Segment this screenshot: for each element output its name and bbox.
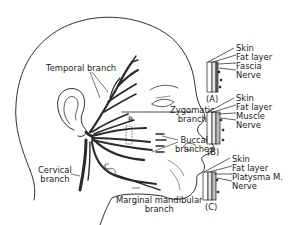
ear-inner-fold: [64, 97, 78, 124]
cervical-branch-nerve: [80, 140, 86, 190]
cross-section-a-label: (A): [206, 95, 218, 104]
mouth-corner-lines: [168, 160, 184, 190]
layer-nerve: Nerve: [236, 71, 272, 80]
neck-back-outline: [30, 170, 35, 200]
cross-section-a-layers: Skin Fat layer Fascia Nerve: [236, 44, 272, 80]
layer-nerve: Nerve: [232, 182, 283, 191]
zygomatic-branch-label: Zygomatic branch: [170, 106, 215, 124]
cross-section-a: [207, 48, 236, 92]
temporal-pointer-2: [92, 72, 108, 92]
cross-section-b-layers: Skin Fat layer Muscle Nerve: [236, 94, 272, 130]
marker-c: C: [104, 162, 109, 171]
cross-section-b-label: (B): [207, 148, 219, 157]
cross-section-c-label: (C): [205, 203, 217, 212]
facial-nerve-diagram: Temporal branch Zygomatic branch Buccal …: [0, 0, 288, 225]
marker-b: B: [128, 115, 133, 124]
buccal-branch-nerve-4: [94, 140, 144, 160]
ear-outline: [58, 88, 87, 136]
nerve-trunk: [86, 132, 92, 136]
temporal-branch-nerve-3: [108, 84, 136, 102]
cross-section-c: [203, 158, 232, 200]
marginal-mandibular-nerve-2: [112, 174, 160, 190]
eye-lid-fold: [156, 96, 170, 98]
temporal-branch-label: Temporal branch: [46, 64, 116, 73]
temporal-branch-nerve-5: [132, 56, 138, 62]
eyebrow: [150, 85, 178, 90]
cervical-branch-label: Cervical branch: [38, 166, 72, 184]
cervical-branch-nerve-2: [88, 142, 90, 180]
cervical-pointer: [71, 174, 80, 176]
marginal-mandibular-branch-label: Marginal mandibular branch: [116, 196, 203, 214]
layer-nerve: Nerve: [236, 121, 272, 130]
cross-section-c-layers: Skin Fat layer Platysma M. Nerve: [232, 155, 283, 191]
